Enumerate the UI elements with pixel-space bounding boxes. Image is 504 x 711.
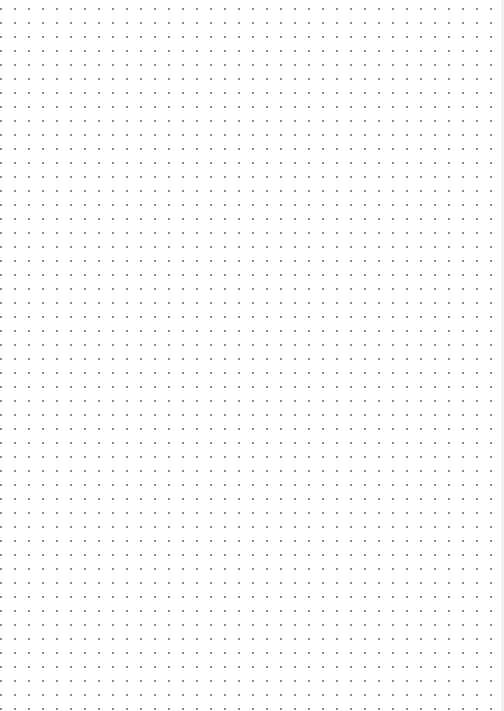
dot-grid-page: dot-grid [0, 0, 501, 711]
